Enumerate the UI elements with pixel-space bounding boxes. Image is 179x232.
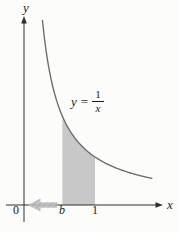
origin-tick-label: 0	[13, 204, 19, 216]
equation-lhs: y	[71, 94, 77, 110]
plot-canvas	[0, 0, 179, 232]
b-tick-label: b	[59, 204, 65, 216]
fraction-denominator: x	[95, 102, 100, 114]
curve-equation-label: y = 1 x	[71, 89, 104, 114]
y-axis-arrowhead-icon	[21, 16, 27, 24]
fraction-numerator: 1	[92, 89, 104, 101]
x-axis-label: x	[167, 198, 173, 211]
y-axis-label: y	[23, 1, 29, 14]
one-tick-label: 1	[92, 204, 98, 216]
equation-fraction: 1 x	[92, 89, 104, 114]
shaded-region-under-curve	[62, 116, 95, 205]
function-plot-figure: y x 0 b 1 y = 1 x	[0, 0, 179, 232]
equation-equals: =	[81, 94, 88, 110]
x-axis-arrowhead-icon	[156, 202, 164, 208]
limit-arrow-icon	[28, 199, 58, 212]
